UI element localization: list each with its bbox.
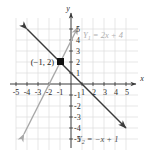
y-tick-label: 3 bbox=[76, 47, 80, 56]
x-tick-label: -3 bbox=[35, 88, 42, 97]
graph-figure: -5 -4 -3 -2 -1 1 2 3 4 5 5 4 3 2 1 -1 -2… bbox=[0, 0, 153, 155]
y1-label-rest: = 2x + 4 bbox=[91, 30, 124, 40]
x-axis-label: x bbox=[139, 74, 144, 83]
x-tick-label: 4 bbox=[114, 88, 118, 97]
y-tick-label: 2 bbox=[76, 58, 80, 67]
intersection-point-marker bbox=[57, 58, 64, 65]
line-y1 bbox=[24, 27, 78, 134]
x-tick-label: 3 bbox=[103, 88, 107, 97]
x-tick-label: -5 bbox=[13, 88, 20, 97]
y-tick-label: 5 bbox=[76, 25, 80, 34]
y-tick-label: -3 bbox=[74, 113, 81, 122]
y-tick-label: 4 bbox=[76, 36, 80, 45]
y-axis-label: y bbox=[65, 4, 70, 13]
line-y1-equation-label: Y1 = 2x + 4 bbox=[83, 30, 124, 41]
x-tick-label: -4 bbox=[24, 88, 31, 97]
x-tick-label: 5 bbox=[125, 88, 129, 97]
line-y2-equation-label: Y2 = −x + 1 bbox=[77, 134, 118, 145]
x-tick-label: -1 bbox=[57, 88, 64, 97]
x-tick-label: -2 bbox=[46, 88, 53, 97]
y-tick-label: -1 bbox=[74, 91, 81, 100]
y2-label-rest: = −x + 1 bbox=[85, 134, 119, 144]
y-tick-label: 1 bbox=[76, 69, 80, 78]
y-tick-label: -4 bbox=[74, 124, 81, 133]
x-tick-label: 1 bbox=[81, 88, 85, 97]
y-tick-label: -2 bbox=[74, 102, 81, 111]
intersection-point-label: (−1, 2) bbox=[31, 57, 54, 67]
coordinate-plane: -5 -4 -3 -2 -1 1 2 3 4 5 5 4 3 2 1 -1 -2… bbox=[0, 0, 153, 155]
x-tick-label: 2 bbox=[92, 88, 96, 97]
